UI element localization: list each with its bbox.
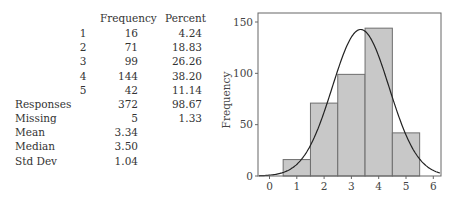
- category-label: 1: [78, 27, 88, 40]
- x-axis-ticks: 0123456: [266, 176, 437, 192]
- x-tick-label: 2: [321, 180, 328, 192]
- category-label: 5: [78, 84, 88, 97]
- histogram-bar: [310, 103, 337, 176]
- category-frequency: 144: [100, 70, 138, 83]
- responses-frequency: 372: [100, 98, 138, 111]
- summary-label-mean: Mean: [15, 126, 45, 139]
- std-dev-value: 1.04: [100, 155, 138, 168]
- mean-value: 3.34: [100, 126, 138, 139]
- y-tick-label: 50: [240, 118, 253, 130]
- category-percent: 26.26: [160, 55, 202, 68]
- category-frequency: 42: [100, 84, 138, 97]
- x-tick-label: 6: [430, 180, 437, 192]
- category-label: 3: [78, 55, 88, 68]
- y-tick-label: 100: [233, 67, 253, 79]
- category-label: 2: [78, 41, 88, 54]
- histogram-chart: 0123456 050100150 Frequency: [220, 0, 456, 198]
- summary-label-missing: Missing: [15, 112, 57, 125]
- category-percent: 11.14: [160, 84, 202, 97]
- x-tick-label: 3: [348, 180, 355, 192]
- median-value: 3.50: [100, 140, 138, 153]
- histogram-bar: [392, 133, 419, 176]
- statistics-table: Frequency Percent 1 16 4.24 2 71 18.83 3…: [0, 0, 225, 198]
- y-axis-label: Frequency: [220, 72, 232, 129]
- y-tick-label: 150: [233, 16, 253, 28]
- header-percent: Percent: [160, 12, 206, 25]
- x-tick-label: 5: [403, 180, 410, 192]
- histogram-bar: [283, 160, 310, 176]
- category-frequency: 99: [100, 55, 138, 68]
- category-percent: 18.83: [160, 41, 202, 54]
- category-frequency: 16: [100, 27, 138, 40]
- x-tick-label: 1: [293, 180, 300, 192]
- y-tick-label: 0: [246, 170, 253, 182]
- histogram-bar: [338, 74, 365, 176]
- x-tick-label: 0: [266, 180, 273, 192]
- category-percent: 4.24: [160, 27, 202, 40]
- header-frequency: Frequency: [100, 12, 152, 25]
- missing-percent: 1.33: [160, 112, 202, 125]
- category-percent: 38.20: [160, 70, 202, 83]
- category-label: 4: [78, 70, 88, 83]
- summary-label-median: Median: [15, 140, 55, 153]
- summary-label-responses: Responses: [15, 98, 71, 111]
- missing-frequency: 5: [100, 112, 138, 125]
- x-tick-label: 4: [375, 180, 382, 192]
- category-frequency: 71: [100, 41, 138, 54]
- summary-label-std-dev: Std Dev: [15, 155, 57, 168]
- histogram-bar: [365, 28, 392, 176]
- responses-percent: 98.67: [160, 98, 202, 111]
- histogram-svg: 0123456 050100150 Frequency: [220, 0, 456, 198]
- histogram-bars: [283, 28, 420, 176]
- y-axis-ticks: 050100150: [233, 16, 258, 182]
